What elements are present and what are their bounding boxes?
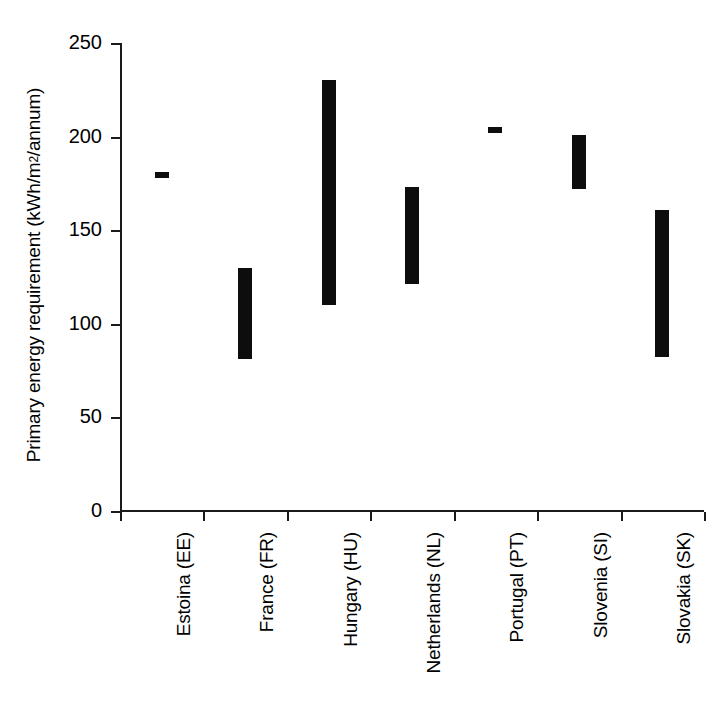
range-bar bbox=[238, 268, 252, 360]
x-axis-label-text: Slovakia (SK) bbox=[673, 530, 695, 704]
x-axis-label: France (FR) bbox=[256, 530, 278, 704]
range-bar bbox=[572, 135, 586, 189]
range-bar bbox=[155, 172, 169, 178]
x-axis-label-text: France (FR) bbox=[256, 530, 278, 704]
x-tick-mark bbox=[537, 512, 539, 521]
x-tick-mark bbox=[120, 512, 122, 521]
x-axis-label: Slovenia (SI) bbox=[590, 530, 612, 704]
range-bar bbox=[322, 80, 336, 305]
x-axis-label-text: Netherlands (NL) bbox=[423, 530, 445, 704]
x-axis-label-text: Portugal (PT) bbox=[506, 530, 528, 704]
chart-figure: Primary energy requirement (kWh/m2/annum… bbox=[0, 0, 724, 704]
x-axis-label-text: Hungary (HU) bbox=[340, 530, 362, 704]
x-axis-label: Estoina (EE) bbox=[173, 530, 195, 704]
x-axis-label-text: Slovenia (SI) bbox=[590, 530, 612, 704]
plot-area bbox=[0, 0, 724, 704]
x-tick-mark bbox=[704, 512, 706, 521]
x-axis-label: Hungary (HU) bbox=[340, 530, 362, 704]
x-axis-label: Slovakia (SK) bbox=[673, 530, 695, 704]
x-tick-mark bbox=[287, 512, 289, 521]
x-tick-mark bbox=[621, 512, 623, 521]
x-tick-mark bbox=[454, 512, 456, 521]
x-axis-label: Netherlands (NL) bbox=[423, 530, 445, 704]
x-axis-label-text: Estoina (EE) bbox=[173, 530, 195, 704]
x-tick-mark bbox=[203, 512, 205, 521]
x-tick-mark bbox=[370, 512, 372, 521]
x-axis-line bbox=[120, 510, 704, 512]
range-bar bbox=[655, 210, 669, 358]
range-bar bbox=[488, 127, 502, 133]
x-axis-label: Portugal (PT) bbox=[506, 530, 528, 704]
range-bar bbox=[405, 187, 419, 284]
